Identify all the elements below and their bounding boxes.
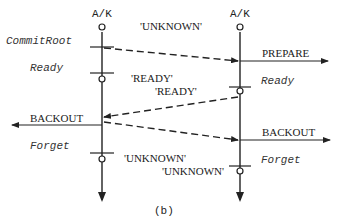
right-timeline [229, 24, 251, 202]
prepare-message-arrow [104, 48, 238, 61]
right-state-forget: Forget [261, 154, 301, 166]
protocol-diagram: A/K A/K CommitRoot Ready Forget Ready Fo… [0, 0, 337, 223]
left-state-ready: Ready [30, 62, 63, 74]
left-timeline [90, 24, 114, 202]
ready-left-label: 'READY' [131, 72, 173, 84]
unknown-bottom-right-label: 'UNKNOWN' [162, 165, 224, 177]
figure-caption: (b) [154, 205, 174, 217]
prepare-label: PREPARE [262, 47, 310, 59]
ready-right-label: 'READY' [155, 85, 197, 97]
ready-message-arrow [104, 97, 238, 117]
unknown-top-label: 'UNKNOWN' [140, 20, 202, 32]
backout-left-label: BACKOUT [30, 112, 83, 124]
left-participant-label: A/K [92, 8, 112, 20]
unknown-bottom-left-label: 'UNKNOWN' [124, 152, 186, 164]
right-state-ready: Ready [261, 75, 294, 87]
right-participant-label: A/K [230, 8, 250, 20]
backout-message-arrow [104, 122, 238, 140]
left-state-commit-root: CommitRoot [6, 35, 72, 47]
left-state-forget: Forget [30, 140, 70, 152]
backout-right-label: BACKOUT [262, 126, 315, 138]
